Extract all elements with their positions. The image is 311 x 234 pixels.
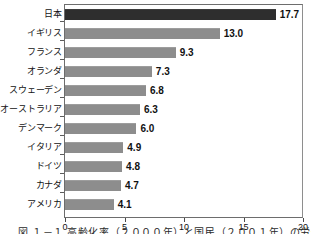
bar-track: 6.3 <box>65 104 303 115</box>
bar-row: イタリア4.9 <box>0 138 311 157</box>
bar <box>65 66 152 77</box>
y-axis-tick <box>60 97 64 98</box>
bar-value-label: 6.3 <box>140 104 158 115</box>
bar-row: スウェーデン6.8 <box>0 81 311 100</box>
y-axis-tick <box>60 116 64 117</box>
bar-track: 9.3 <box>65 47 303 58</box>
y-axis-tick <box>60 21 64 22</box>
bar-row: イギリス13.0 <box>0 24 311 43</box>
category-label: 日本 <box>0 5 62 24</box>
bar-value-label: 4.7 <box>121 180 139 191</box>
y-axis-tick <box>60 59 64 60</box>
bar-row: 日本17.7 <box>0 5 311 24</box>
bar-value-label: 7.3 <box>152 66 170 77</box>
category-label: スウェーデン <box>0 81 62 100</box>
bar-track: 6.8 <box>65 85 303 96</box>
bar-row: オーストラリア6.3 <box>0 100 311 119</box>
bar-track: 13.0 <box>65 28 303 39</box>
category-label: アメリカ <box>0 195 62 214</box>
bar <box>65 85 146 96</box>
bar-track: 4.7 <box>65 180 303 191</box>
y-axis-tick <box>60 135 64 136</box>
category-label: フランス <box>0 43 62 62</box>
bar-row: フランス9.3 <box>0 43 311 62</box>
bar-track: 4.1 <box>65 199 303 210</box>
bar-track: 6.0 <box>65 123 303 134</box>
category-label: カナダ <box>0 176 62 195</box>
category-label: オランダ <box>0 62 62 81</box>
bar <box>65 199 114 210</box>
category-label: ドイツ <box>0 157 62 176</box>
bar <box>65 47 176 58</box>
bar-row: ドイツ4.8 <box>0 157 311 176</box>
bar <box>65 142 123 153</box>
y-axis-tick <box>60 173 64 174</box>
y-axis-tick <box>60 154 64 155</box>
bar-row: アメリカ4.1 <box>0 195 311 214</box>
bar-value-label: 13.0 <box>220 28 243 39</box>
bar-chart-figure: 日本17.7イギリス13.0フランス9.3オランダ7.3スウェーデン6.8オース… <box>0 0 311 234</box>
bar-value-label: 4.1 <box>114 199 132 210</box>
bar-value-label: 4.9 <box>123 142 141 153</box>
bar-value-label: 6.8 <box>146 85 164 96</box>
category-label: デンマーク <box>0 119 62 138</box>
bar <box>65 28 220 39</box>
bar-track: 4.9 <box>65 142 303 153</box>
bar <box>65 123 136 134</box>
bar-value-label: 17.7 <box>276 9 299 20</box>
y-axis-tick <box>60 40 64 41</box>
bar <box>65 180 121 191</box>
bar-track: 17.7 <box>65 9 303 20</box>
y-axis-tick <box>60 78 64 79</box>
category-label: イギリス <box>0 24 62 43</box>
bar-track: 4.8 <box>65 161 303 172</box>
bar <box>65 104 140 115</box>
bar-row: デンマーク6.0 <box>0 119 311 138</box>
bar-value-label: 6.0 <box>136 123 154 134</box>
bar-row: オランダ7.3 <box>0 62 311 81</box>
y-axis-tick <box>60 192 64 193</box>
bar <box>65 9 276 20</box>
bar-value-label: 9.3 <box>176 47 194 58</box>
bar-track: 7.3 <box>65 66 303 77</box>
category-label: オーストラリア <box>0 100 62 119</box>
figure-caption: 図 １－１ 高齢化率（２０００年）と国民（２００１年）の労働力 <box>18 227 311 234</box>
category-label: イタリア <box>0 138 62 157</box>
bar-value-label: 4.8 <box>122 161 140 172</box>
bar <box>65 161 122 172</box>
bar-row: カナダ4.7 <box>0 176 311 195</box>
